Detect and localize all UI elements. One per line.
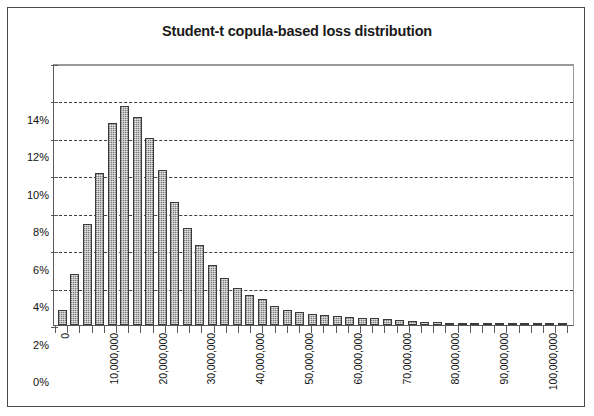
bar xyxy=(345,317,354,325)
bar xyxy=(220,278,229,325)
x-tick-mark xyxy=(92,326,93,333)
x-tick-mark xyxy=(128,326,129,333)
x-tick-mark xyxy=(519,326,520,333)
x-tick-mark xyxy=(397,326,398,333)
bar xyxy=(70,274,79,325)
x-tick-mark xyxy=(531,326,532,333)
bar xyxy=(408,321,417,325)
chart-frame: Student-t copula-based loss distribution… xyxy=(7,7,585,407)
bar xyxy=(558,323,567,325)
bar xyxy=(320,315,329,325)
x-tick-mark xyxy=(55,326,56,333)
bar xyxy=(158,170,167,325)
y-tick-mark xyxy=(51,290,58,291)
x-tick-mark xyxy=(555,326,556,333)
x-tick-label: 0 xyxy=(59,333,71,339)
bar xyxy=(183,228,192,325)
bar xyxy=(333,316,342,325)
x-tick-label: 80,000,000 xyxy=(449,333,461,385)
bar xyxy=(445,323,454,325)
y-tick-mark xyxy=(51,215,58,216)
x-tick-label: 40,000,000 xyxy=(254,333,266,385)
bar xyxy=(495,323,504,325)
bar xyxy=(420,322,429,325)
x-tick-mark xyxy=(494,326,495,333)
x-tick-mark xyxy=(104,326,105,333)
plot-area xyxy=(53,64,574,326)
x-tick-mark xyxy=(79,326,80,333)
y-tick-mark xyxy=(51,102,58,103)
x-tick-mark xyxy=(543,326,544,333)
y-tick-mark xyxy=(51,65,58,66)
chart-root: Student-t copula-based loss distribution… xyxy=(0,0,594,416)
x-tick-mark xyxy=(201,326,202,333)
y-tick-mark xyxy=(51,252,58,253)
x-tick-mark xyxy=(250,326,251,333)
x-tick-mark xyxy=(189,326,190,333)
bar xyxy=(170,202,179,326)
x-tick-mark xyxy=(567,326,568,333)
y-tick-mark xyxy=(51,140,58,141)
y-tick-label: 6% xyxy=(9,264,49,276)
chart-title: Student-t copula-based loss distribution xyxy=(8,23,586,39)
x-tick-mark xyxy=(482,326,483,333)
x-tick-label: 60,000,000 xyxy=(352,333,364,385)
x-tick-mark xyxy=(323,326,324,333)
y-tick-label: 2% xyxy=(9,339,49,351)
bar xyxy=(108,123,117,325)
x-tick-label: 50,000,000 xyxy=(303,333,315,385)
bar xyxy=(508,323,517,325)
bar xyxy=(58,310,67,325)
bar xyxy=(520,323,529,325)
x-tick-mark xyxy=(140,326,141,333)
bar xyxy=(270,306,279,325)
x-tick-mark xyxy=(336,326,337,333)
y-tick-mark xyxy=(51,177,58,178)
x-tick-mark xyxy=(348,326,349,333)
y-axis-label-group: 14%12%10%8%6%4%2%0% xyxy=(8,64,49,326)
x-tick-mark xyxy=(275,326,276,333)
bar xyxy=(283,310,292,325)
y-tick-label: 0% xyxy=(9,376,49,388)
bar-series xyxy=(54,65,573,325)
x-tick-label: 10,000,000 xyxy=(108,333,120,385)
y-tick-label: 12% xyxy=(9,151,49,163)
x-tick-mark xyxy=(299,326,300,333)
bar xyxy=(83,224,92,325)
x-tick-mark xyxy=(433,326,434,333)
x-tick-mark xyxy=(470,326,471,333)
y-tick-label: 14% xyxy=(9,114,49,126)
bar xyxy=(95,173,104,325)
x-tick-mark xyxy=(372,326,373,333)
bar xyxy=(545,323,554,325)
bar xyxy=(470,323,479,325)
bar xyxy=(458,323,467,325)
bar xyxy=(145,138,154,325)
x-tick-label: 30,000,000 xyxy=(205,333,217,385)
bar xyxy=(395,320,404,325)
bar xyxy=(120,106,129,325)
bar xyxy=(358,318,367,325)
x-tick-mark xyxy=(287,326,288,333)
x-tick-mark xyxy=(153,326,154,333)
x-tick-label: 100,000,000 xyxy=(547,333,559,390)
x-tick-mark xyxy=(226,326,227,333)
x-tick-label: 70,000,000 xyxy=(401,333,413,385)
bar xyxy=(195,245,204,325)
x-tick-mark xyxy=(177,326,178,333)
bar xyxy=(533,323,542,325)
x-tick-label: 90,000,000 xyxy=(498,333,510,385)
bar xyxy=(483,323,492,325)
x-tick-mark xyxy=(238,326,239,333)
y-tick-label: 10% xyxy=(9,189,49,201)
bar xyxy=(433,322,442,325)
bar xyxy=(383,319,392,325)
bar xyxy=(133,117,142,325)
bar xyxy=(370,318,379,325)
y-tick-label: 4% xyxy=(9,301,49,313)
bar xyxy=(308,314,317,325)
bar xyxy=(208,265,217,325)
y-tick-label: 8% xyxy=(9,226,49,238)
x-tick-label: 20,000,000 xyxy=(157,333,169,385)
bar xyxy=(233,288,242,325)
